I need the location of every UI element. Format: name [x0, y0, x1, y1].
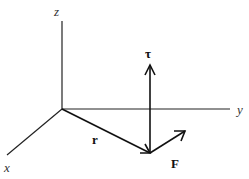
z-axis-label: z	[53, 4, 59, 19]
r-vector	[62, 109, 150, 153]
x-axis	[7, 109, 62, 155]
torque-diagram: z y x r τ F	[0, 0, 249, 179]
F-vector	[150, 131, 185, 153]
y-axis-label: y	[235, 102, 243, 117]
tau-vector-label: τ	[145, 46, 151, 61]
F-vector-label: F	[171, 156, 179, 171]
r-vector-label: r	[92, 132, 98, 147]
x-axis-label: x	[3, 160, 10, 175]
